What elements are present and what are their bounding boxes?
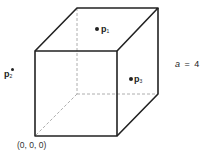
point-p3-marker [129,77,133,81]
origin-label: (0, 0, 0) [17,141,46,150]
point-p1-marker [95,27,99,31]
right-face-edges [117,8,158,136]
edge-length-label: a = 4 [175,60,199,69]
point-p2-label: p2 [4,70,12,79]
hidden-edge-depth-bottom-left [35,94,77,136]
point-p3-label: p3 [134,75,142,84]
point-p1-label: p1 [101,25,109,34]
